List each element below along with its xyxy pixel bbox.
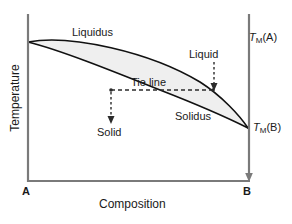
melting-point-a-label: TM(A) xyxy=(249,32,277,45)
melting-point-a-symbol: T xyxy=(249,31,256,43)
liquid-region-label: Liquid xyxy=(189,49,218,60)
y-axis-label: Temperature xyxy=(9,64,21,131)
liquidus-label: Liquidus xyxy=(72,27,113,38)
solidus-label: Solidus xyxy=(175,111,211,122)
melting-point-b-argument: (B) xyxy=(266,121,281,133)
melting-point-b-label: TM(B) xyxy=(253,122,281,135)
melting-point-b-symbol: T xyxy=(253,121,260,133)
solid-leader-arrowhead xyxy=(108,116,115,124)
tie-line-label: Tie line xyxy=(131,77,166,88)
melting-point-a-argument: (A) xyxy=(262,31,277,43)
x-axis-label: Composition xyxy=(99,198,166,210)
tie-line-solidus-endpoint xyxy=(109,88,113,92)
solid-region-label: Solid xyxy=(97,127,121,138)
x-axis-endpoint-a: A xyxy=(22,186,30,197)
x-axis-endpoint-b: B xyxy=(243,186,251,197)
phase-diagram-figure: Liquidus Liquid Tie line Solidus Solid T… xyxy=(0,0,292,224)
